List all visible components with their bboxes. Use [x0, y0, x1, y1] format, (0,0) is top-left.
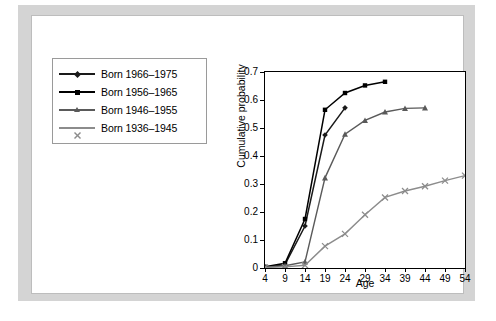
square-marker-icon	[75, 90, 80, 95]
chart-plot: Cumulative probability Age 00.10.20.30.4…	[214, 46, 479, 296]
cross-marker-icon	[74, 125, 81, 132]
legend-label-series-4: Born 1936–1945	[101, 122, 177, 134]
diamond-marker-icon	[73, 70, 80, 77]
y-tick-label: 0.4	[214, 150, 258, 161]
legend-swatch-series-2	[59, 84, 95, 100]
plot-area	[264, 71, 466, 269]
legend-swatch-series-1	[59, 66, 95, 82]
legend-item-born-1966-1975: Born 1966–1975	[59, 65, 199, 83]
triangle-marker-icon	[74, 107, 80, 112]
legend-label-series-2: Born 1956–1965	[101, 86, 177, 98]
series-1	[265, 105, 348, 268]
legend-label-series-1: Born 1966–1975	[101, 68, 177, 80]
series-4	[265, 173, 465, 268]
y-tick-label: 0.2	[214, 206, 258, 217]
y-tick-label: 0.1	[214, 234, 258, 245]
legend-item-born-1936-1945: Born 1936–1945	[59, 119, 199, 137]
legend-item-born-1946-1955: Born 1946–1955	[59, 101, 199, 119]
series-canvas	[265, 72, 465, 268]
legend-swatch-series-3	[59, 102, 95, 118]
legend-label-series-3: Born 1946–1955	[101, 104, 177, 116]
figure-canvas: Born 1966–1975 Born 1956–1965 Born 1946–…	[31, 15, 464, 294]
x-tick-label: 54	[450, 273, 480, 284]
y-tick-label: 0.5	[214, 122, 258, 133]
y-tick-label: 0	[214, 262, 258, 273]
y-axis-title: Cumulative probability	[235, 41, 247, 191]
chart-legend: Born 1966–1975 Born 1956–1965 Born 1946–…	[52, 58, 207, 144]
series-3	[265, 105, 428, 268]
y-tick-label: 0.3	[214, 178, 258, 189]
legend-swatch-series-4	[59, 120, 95, 136]
y-tick-label: 0.6	[214, 94, 258, 105]
legend-item-born-1956-1965: Born 1956–1965	[59, 83, 199, 101]
figure-panel: Born 1966–1975 Born 1956–1965 Born 1946–…	[18, 5, 475, 301]
y-tick-label: 0.7	[214, 66, 258, 77]
